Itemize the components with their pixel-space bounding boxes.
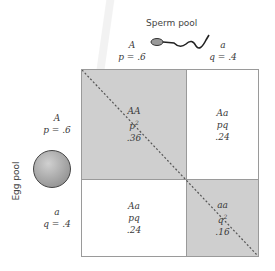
egg-freq-q: q = .4 (37, 219, 77, 230)
diagonal-dashed-line (82, 70, 258, 256)
egg-pool-title: Egg pool (11, 161, 21, 201)
sperm-icon (150, 34, 212, 54)
sperm-allele-A: A (122, 40, 142, 51)
sperm-pool-title: Sperm pool (146, 18, 197, 28)
egg-allele-a: a (47, 207, 67, 218)
egg-freq-p: p = .6 (37, 125, 77, 136)
sperm-freq-q: q = .4 (203, 52, 243, 63)
sperm-allele-a: a (213, 40, 233, 51)
punnett-square: AA p2 .36 Aa pq .24 Aa pq .24 aa q2 .16 (81, 69, 259, 257)
egg-icon (33, 150, 71, 188)
egg-allele-A: A (47, 113, 67, 124)
sperm-freq-p: p = .6 (112, 52, 152, 63)
